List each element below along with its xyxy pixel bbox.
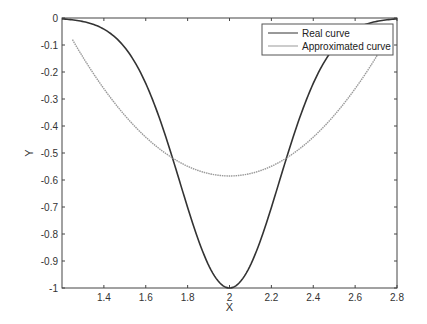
y-tick-label: -0.1 xyxy=(41,40,59,51)
y-axis-label: Y xyxy=(23,149,35,157)
plot-area xyxy=(62,18,397,288)
x-tick-label: 2.6 xyxy=(348,292,362,303)
y-tick-label: -0.2 xyxy=(41,67,59,78)
legend-label-real: Real curve xyxy=(302,28,350,39)
y-tick-label: -1 xyxy=(49,283,58,294)
y-tick-label: -0.3 xyxy=(41,94,59,105)
y-tick-label: -0.8 xyxy=(41,229,59,240)
y-tick-label: -0.5 xyxy=(41,148,59,159)
y-tick-label: 0 xyxy=(52,13,58,24)
x-axis-label: X xyxy=(226,301,234,313)
x-tick-label: 1.8 xyxy=(181,292,195,303)
x-tick-label: 2.8 xyxy=(390,292,404,303)
x-tick-label: 2.2 xyxy=(264,292,278,303)
x-tick-label: 1.4 xyxy=(97,292,111,303)
x-tick-label: 1.6 xyxy=(139,292,153,303)
x-tick-label: 2.4 xyxy=(306,292,320,303)
plot-frame xyxy=(62,18,397,288)
line-chart: 1.41.61.822.22.42.62.8 0-0.1-0.2-0.3-0.4… xyxy=(0,0,427,324)
y-tick-label: -0.9 xyxy=(41,256,59,267)
y-tick-label: -0.7 xyxy=(41,202,59,213)
y-tick-label: -0.4 xyxy=(41,121,59,132)
legend: Real curve Approximated curve xyxy=(262,24,393,55)
y-tick-label: -0.6 xyxy=(41,175,59,186)
legend-label-approximated: Approximated curve xyxy=(302,41,391,52)
